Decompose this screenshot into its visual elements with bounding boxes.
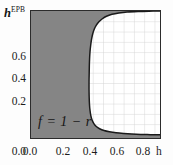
y-tick-label-0.6: 0.6 xyxy=(0,51,26,63)
y-tick-label-0.2: 0.2 xyxy=(0,96,26,108)
chart-figure: hEPB f = 1 − r 0.6 0.4 0.2 0.0 0.0 0.2 0… xyxy=(0,0,173,165)
y-tick-label-0.4: 0.4 xyxy=(0,73,26,85)
x-tick-label-0.0: 0.0 xyxy=(18,146,42,158)
plot-area: f = 1 − r xyxy=(30,10,161,139)
x-tick-label-0.2: 0.2 xyxy=(51,146,75,158)
x-tick-label-0.4: 0.4 xyxy=(78,146,102,158)
x-tick-label-0.8: 0.8 xyxy=(131,146,155,158)
y-axis-label-base: h xyxy=(4,6,11,20)
curve-equation-annotation: f = 1 − r xyxy=(38,115,92,129)
y-axis-label: hEPB xyxy=(4,6,25,20)
x-axis-label: h xyxy=(156,146,162,158)
x-tick-label-0.6: 0.6 xyxy=(105,146,129,158)
y-axis-label-superscript: EPB xyxy=(11,5,25,14)
